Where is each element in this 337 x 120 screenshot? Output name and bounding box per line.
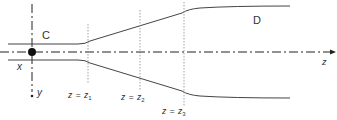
y-axis-end-dot-icon bbox=[31, 95, 34, 98]
svg-text:z = z1: z = z1 bbox=[67, 90, 92, 101]
station-label-3: z = z3 bbox=[161, 106, 186, 117]
nozzle-diagram: C D x y z z = z1 z = z2 z = z3 bbox=[0, 0, 337, 120]
lower-wall bbox=[8, 60, 290, 98]
origin-dot bbox=[28, 48, 36, 56]
label-region-c: C bbox=[42, 29, 50, 41]
label-z-axis: z bbox=[321, 57, 327, 67]
upper-wall bbox=[8, 6, 290, 44]
label-region-d: D bbox=[253, 14, 261, 26]
z-axis bbox=[0, 50, 336, 55]
label-y-axis: y bbox=[36, 87, 43, 98]
z-axis-arrow-icon bbox=[330, 50, 336, 55]
station-label-2: z = z2 bbox=[120, 92, 145, 103]
label-x-axis: x bbox=[16, 61, 23, 72]
svg-text:z = z2: z = z2 bbox=[120, 92, 145, 103]
svg-text:z = z3: z = z3 bbox=[161, 106, 186, 117]
station-label-1: z = z1 bbox=[67, 90, 92, 101]
